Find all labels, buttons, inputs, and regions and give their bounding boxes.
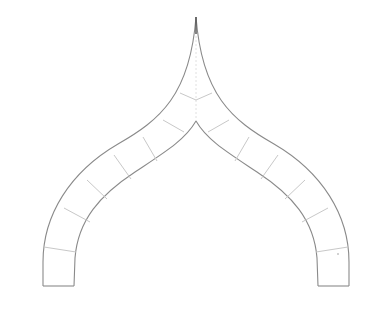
stray-dot-mark bbox=[337, 253, 339, 255]
ogee-arch-drawing bbox=[0, 0, 367, 314]
left-intrados-curve bbox=[74, 121, 196, 286]
right-voussoir-joints bbox=[196, 93, 348, 252]
right-intrados-curve bbox=[196, 121, 318, 286]
left-extrados-curve bbox=[43, 17, 196, 286]
left-voussoir-joints bbox=[44, 93, 196, 252]
right-extrados-curve bbox=[196, 17, 349, 286]
